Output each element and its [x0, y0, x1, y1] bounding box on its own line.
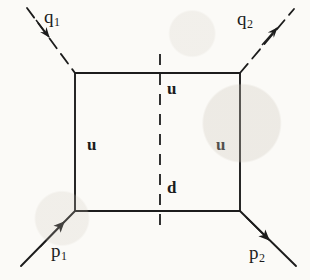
- feynman-diagram-figure: q1 q2 p1 p2 u u u d: [0, 0, 310, 280]
- p2-arrow: [246, 217, 269, 240]
- label-quark-u-top: u: [167, 80, 176, 97]
- label-p1-subscript: 1: [61, 249, 67, 263]
- label-quark-d-bottom: d: [167, 179, 176, 196]
- label-quark-u-right: u: [216, 136, 225, 153]
- label-quark-u-left: u: [87, 136, 96, 153]
- label-p1-symbol: p: [51, 240, 61, 261]
- label-p2-symbol: p: [249, 242, 259, 263]
- label-q2: q2: [237, 9, 253, 28]
- label-q2-subscript: 2: [247, 17, 253, 31]
- label-q1: q1: [44, 7, 60, 26]
- label-p2-subscript: 2: [259, 251, 265, 265]
- label-p1: p1: [51, 241, 67, 260]
- q2-arrow: [262, 28, 277, 45]
- diagram-canvas: [0, 0, 310, 280]
- label-q2-symbol: q: [237, 8, 247, 29]
- label-q1-symbol: q: [44, 6, 54, 27]
- label-p2: p2: [249, 243, 265, 262]
- label-q1-subscript: 1: [54, 15, 60, 29]
